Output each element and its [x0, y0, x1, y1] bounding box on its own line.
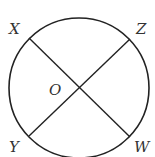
label-w: W [134, 138, 151, 156]
label-z: Z [135, 20, 147, 38]
circle-diagram: X Z Y W O [0, 0, 155, 157]
diagram-canvas: X Z Y W O [0, 0, 155, 157]
label-o: O [49, 81, 61, 99]
label-y: Y [9, 138, 21, 156]
label-x: X [8, 20, 21, 38]
